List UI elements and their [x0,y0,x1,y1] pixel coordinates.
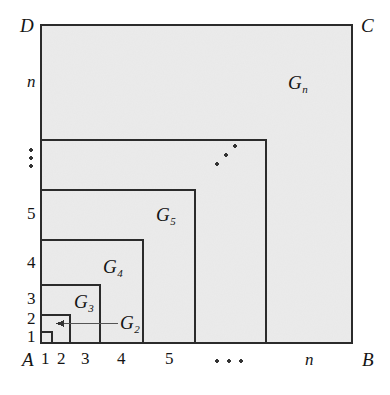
y-tick-4: 4 [27,254,36,271]
corner-label-D: D [20,16,34,35]
region-label-gn-base: G [288,72,302,93]
region-label-g4: G4 [103,257,122,276]
x-tick-2: 2 [57,350,66,367]
y-tick-5: 5 [27,205,36,222]
nested-squares-figure [0,0,390,395]
x-tick-1: 1 [41,350,50,367]
x-tick-4: 4 [117,350,126,367]
region-label-g3: G3 [74,292,93,311]
region-label-g3-base: G [74,291,88,312]
region-label-g2-base: G [120,312,134,333]
region-label-g2: G2 [120,313,139,332]
region-label-g5-base: G [156,204,170,225]
x-tick-n: n [305,351,314,368]
corner-label-C: C [361,16,374,35]
region-label-g4-sub: 4 [117,267,123,279]
y-axis-ellipsis-dots [29,148,32,167]
region-label-g2-sub: 2 [134,323,140,335]
y-tick-2: 2 [27,310,36,327]
region-label-gn: Gn [288,73,307,92]
x-axis-ellipsis-dots [215,359,243,363]
corner-label-A: A [22,350,34,369]
x-tick-5: 5 [165,350,174,367]
corner-label-B: B [362,350,374,369]
region-label-g5: G5 [156,205,175,224]
region-label-g5-sub: 5 [170,215,176,227]
y-tick-1: 1 [27,328,36,345]
region-label-g4-base: G [103,256,117,277]
x-tick-3: 3 [81,350,90,367]
region-label-gn-sub: n [302,83,308,95]
y-tick-3: 3 [27,290,36,307]
y-tick-n: n [27,73,36,90]
region-label-g3-sub: 3 [88,302,94,314]
